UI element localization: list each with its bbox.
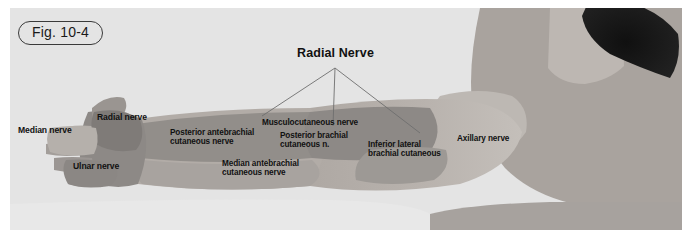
label-median-nerve-hand: Median nerve xyxy=(18,126,72,136)
label-posterior-antebrachial-cutaneous-nerve: Posterior antebrachial cutaneous nerve xyxy=(170,128,254,146)
label-inferior-lateral-brachial-cutaneous: Inferior lateral brachial cutaneous xyxy=(368,140,441,158)
label-median-antebrachial-cutaneous-nerve: Median antebrachial cutaneous nerve xyxy=(222,159,299,177)
label-musculocutaneous-nerve: Musculocutaneous nerve xyxy=(262,118,358,127)
label-posterior-brachial-cutaneous-nerve: Posterior brachial cutaneous n. xyxy=(280,131,348,149)
label-axillary-nerve: Axillary nerve xyxy=(457,134,509,143)
background-floor xyxy=(10,200,430,231)
figure-badge: Fig. 10-4 xyxy=(18,21,103,45)
label-radial-nerve-hand: Radial nerve xyxy=(97,113,147,123)
figure-container: Fig. 10-4 Radial Nerve Radial nerve Medi… xyxy=(0,0,692,252)
label-radial-nerve-title: Radial Nerve xyxy=(297,46,374,60)
label-ulnar-nerve-hand: Ulnar nerve xyxy=(73,162,119,172)
